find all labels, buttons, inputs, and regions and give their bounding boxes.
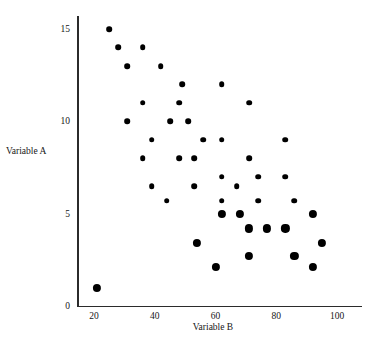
data-point xyxy=(219,82,225,88)
data-point xyxy=(201,137,207,143)
data-point xyxy=(290,252,298,260)
data-point xyxy=(263,224,271,232)
data-point xyxy=(236,210,244,218)
data-point xyxy=(167,119,173,125)
data-point xyxy=(191,155,197,161)
data-point xyxy=(217,210,225,218)
data-point xyxy=(309,210,317,218)
data-point xyxy=(193,239,201,247)
data-point xyxy=(125,119,131,125)
data-point xyxy=(116,45,122,51)
data-point xyxy=(255,198,261,204)
data-point xyxy=(234,183,240,189)
data-point xyxy=(292,198,298,204)
data-point xyxy=(219,137,225,143)
data-point xyxy=(164,198,170,204)
data-point xyxy=(281,224,289,232)
data-point xyxy=(283,137,289,143)
data-point xyxy=(140,45,146,51)
data-point xyxy=(149,183,155,189)
data-point xyxy=(191,183,197,189)
data-point xyxy=(176,155,182,161)
data-point xyxy=(245,224,253,232)
data-point xyxy=(255,174,261,180)
scatter-plot-figure: 051015 20406080100 Variable A Variable B xyxy=(0,0,380,353)
data-point xyxy=(318,239,326,247)
data-point xyxy=(106,26,112,32)
data-point xyxy=(158,63,164,69)
data-point xyxy=(245,252,253,260)
data-point xyxy=(246,155,252,161)
data-point xyxy=(176,100,182,106)
data-point xyxy=(219,198,225,204)
data-point xyxy=(179,82,185,88)
plot-area xyxy=(0,0,380,353)
data-point xyxy=(246,100,252,106)
data-point xyxy=(185,119,191,125)
data-point xyxy=(149,137,155,143)
data-point xyxy=(211,263,219,271)
data-point xyxy=(125,63,131,69)
data-point xyxy=(219,174,225,180)
data-point xyxy=(93,283,101,291)
data-point xyxy=(140,155,146,161)
data-point xyxy=(140,100,146,106)
data-point xyxy=(283,174,289,180)
data-point xyxy=(309,263,317,271)
